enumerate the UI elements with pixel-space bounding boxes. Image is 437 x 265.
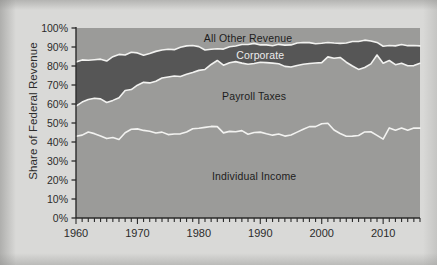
area-label-payroll-taxes: Payroll Taxes: [222, 90, 286, 102]
area-label-individual-income: Individual Income: [212, 170, 296, 182]
y-tick-label: 30%: [0, 155, 68, 167]
y-tick-label: 80%: [0, 60, 68, 72]
x-tick-label: 1980: [187, 227, 211, 239]
x-tick-label: 2000: [309, 227, 333, 239]
y-tick-label: 60%: [0, 98, 68, 110]
y-tick-label: 50%: [0, 117, 68, 129]
y-tick-label: 10%: [0, 193, 68, 205]
x-tick-label: 1960: [64, 227, 88, 239]
y-tick-label: 100%: [0, 22, 68, 34]
y-tick-label: 0%: [0, 212, 68, 224]
x-tick-label: 1990: [248, 227, 272, 239]
chart-figure: Share of Federal Revenue 100%90%80%70%60…: [0, 0, 437, 265]
y-tick-label: 40%: [0, 136, 68, 148]
y-tick-label: 70%: [0, 79, 68, 91]
y-tick-label: 90%: [0, 41, 68, 53]
y-tick-label: 20%: [0, 174, 68, 186]
area-label-all-other-revenue: All Other Revenue: [204, 32, 292, 44]
area-label-corporate: Corporate: [236, 49, 284, 61]
x-tick-label: 1970: [125, 227, 149, 239]
x-tick-label: 2010: [371, 227, 395, 239]
